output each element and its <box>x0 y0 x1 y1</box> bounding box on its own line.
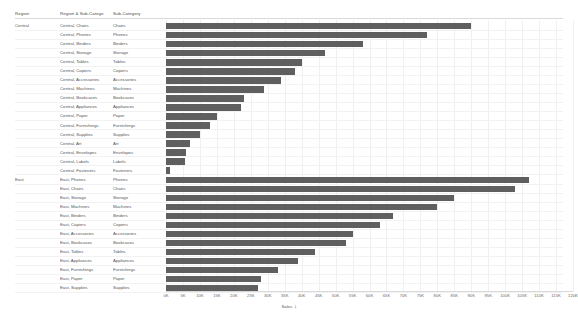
cell-region-subcategory: Central, Paper <box>60 113 110 118</box>
bar[interactable] <box>166 258 298 264</box>
cell-subcategory: Tables <box>113 249 161 254</box>
axis-tick-label: 15K <box>213 293 220 298</box>
axis-tick-label: 25K <box>247 293 254 298</box>
bar[interactable] <box>166 222 380 228</box>
bar[interactable] <box>166 32 427 38</box>
cell-subcategory: Phones <box>113 32 161 37</box>
cell-subcategory: Phones <box>113 177 161 182</box>
bar[interactable] <box>166 167 170 173</box>
cell-region-subcategory: East, Accessories <box>60 231 110 236</box>
cell-region-subcategory: Central, Storage <box>60 50 110 55</box>
axis-tick-label: 0K <box>163 293 168 298</box>
cell-region-subcategory: Central, Labels <box>60 159 110 164</box>
bar[interactable] <box>166 195 454 201</box>
cell-region-subcategory: East, Copiers <box>60 222 110 227</box>
axis-tick-label: 5K <box>180 293 185 298</box>
cell-region-subcategory: East, Appliances <box>60 258 110 263</box>
bar[interactable] <box>166 122 210 128</box>
cell-region-subcategory: East, Furnishings <box>60 267 110 272</box>
bar[interactable] <box>166 267 278 273</box>
bar[interactable] <box>166 276 261 282</box>
cell-region-subcategory: East, Machines <box>60 204 110 209</box>
bar[interactable] <box>166 68 295 74</box>
axis-tick-label: 50K <box>332 293 339 298</box>
bar[interactable] <box>166 95 244 101</box>
axis-tick-label: 70K <box>400 293 407 298</box>
bar[interactable] <box>166 231 353 237</box>
axis-tick-label: 90K <box>468 293 475 298</box>
column-header-region-subcategory[interactable]: Region & Sub-Catego <box>60 11 110 16</box>
cell-subcategory: Machines <box>113 204 161 209</box>
cell-subcategory: Storage <box>113 50 161 55</box>
bar[interactable] <box>166 59 302 65</box>
bar[interactable] <box>166 104 241 110</box>
cell-region-subcategory: East, Binders <box>60 213 110 218</box>
bar[interactable] <box>166 177 529 183</box>
cell-subcategory: Art <box>113 141 161 146</box>
axis-tick-label: 45K <box>315 293 322 298</box>
cell-subcategory: Labels <box>113 159 161 164</box>
bar[interactable] <box>166 249 315 255</box>
cell-region-subcategory: Central, Machines <box>60 86 110 91</box>
bar[interactable] <box>166 213 393 219</box>
cell-region-subcategory: Central, Fasteners <box>60 168 110 173</box>
x-axis: 0K5K10K15K20K25K30K35K40K45K50K55K60K65K… <box>166 292 573 302</box>
bar[interactable] <box>166 86 264 92</box>
bar-chart-visualization: Region Region & Sub-Catego Sub-Category … <box>0 0 578 325</box>
cell-region-subcategory: East, Chairs <box>60 186 110 191</box>
bar[interactable] <box>166 186 515 192</box>
cell-region-subcategory: Central, Appliances <box>60 104 110 109</box>
cell-subcategory: Supplies <box>113 132 161 137</box>
cell-subcategory: Chairs <box>113 23 161 28</box>
x-axis-title-label: Sales <box>281 304 292 309</box>
cell-region-subcategory: Central, Supplies <box>60 132 110 137</box>
column-header-subcategory[interactable]: Sub-Category <box>113 11 161 16</box>
cell-subcategory: Bookcases <box>113 95 161 100</box>
cell-region-subcategory: Central, Tables <box>60 59 110 64</box>
axis-tick-label: 110K <box>534 293 543 298</box>
cell-region-subcategory: Central, Bookcases <box>60 95 110 100</box>
axis-tick-label: 115K <box>551 293 560 298</box>
cell-subcategory: Binders <box>113 213 161 218</box>
sort-descending-icon[interactable]: ↓ <box>294 303 297 310</box>
cell-subcategory: Bookcases <box>113 240 161 245</box>
header-divider <box>15 18 563 19</box>
bar[interactable] <box>166 77 281 83</box>
cell-subcategory: Machines <box>113 86 161 91</box>
cell-subcategory: Tables <box>113 59 161 64</box>
cell-subcategory: Accessories <box>113 231 161 236</box>
axis-tick-label: 120K <box>568 293 578 298</box>
bar[interactable] <box>166 50 325 56</box>
cell-subcategory: Copiers <box>113 68 161 73</box>
column-header-region[interactable]: Region <box>15 11 57 16</box>
cell-subcategory: Envelopes <box>113 150 161 155</box>
axis-tick-label: 80K <box>434 293 441 298</box>
bar[interactable] <box>166 131 200 137</box>
cell-subcategory: Binders <box>113 41 161 46</box>
bar[interactable] <box>166 158 185 164</box>
bar[interactable] <box>166 41 363 47</box>
bar[interactable] <box>166 149 186 155</box>
cell-subcategory: Accessories <box>113 77 161 82</box>
x-axis-title[interactable]: Sales↓ <box>0 303 578 309</box>
bar[interactable] <box>166 113 217 119</box>
cell-subcategory: Paper <box>113 276 161 281</box>
bar[interactable] <box>166 240 346 246</box>
cell-subcategory: Paper <box>113 113 161 118</box>
axis-tick-label: 40K <box>298 293 305 298</box>
axis-tick-label: 65K <box>383 293 390 298</box>
region-group-label[interactable]: Central <box>15 23 29 28</box>
cell-subcategory: Appliances <box>113 258 161 263</box>
cell-region-subcategory: Central, Chairs <box>60 23 110 28</box>
cell-subcategory: Chairs <box>113 186 161 191</box>
bar[interactable] <box>166 204 437 210</box>
region-group-label[interactable]: East <box>15 177 24 182</box>
cell-region-subcategory: Central, Binders <box>60 41 110 46</box>
bar[interactable] <box>166 140 190 146</box>
cell-region-subcategory: East, Supplies <box>60 285 110 290</box>
cell-subcategory: Furnishings <box>113 123 161 128</box>
bar[interactable] <box>166 23 471 29</box>
cell-region-subcategory: Central, Copiers <box>60 68 110 73</box>
cell-subcategory: Fasteners <box>113 168 161 173</box>
cell-region-subcategory: Central, Accessories <box>60 77 110 82</box>
